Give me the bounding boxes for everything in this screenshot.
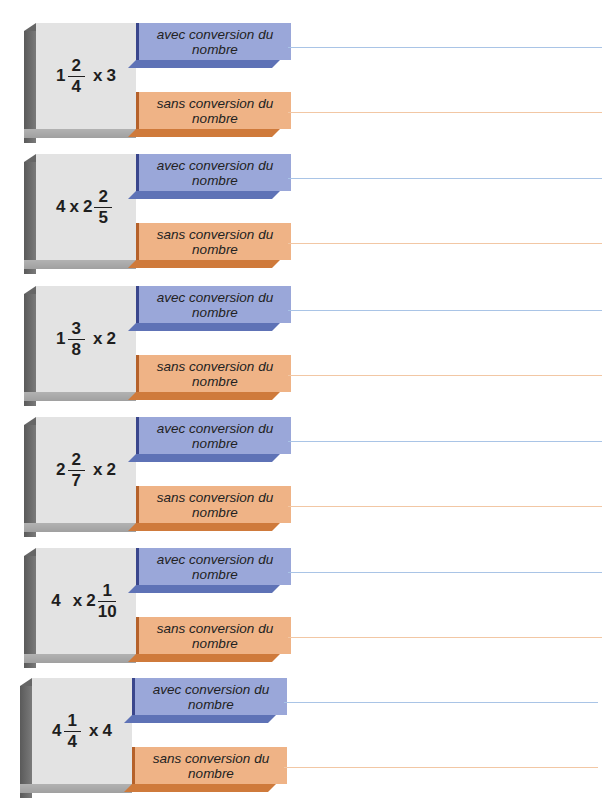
box-bottom	[24, 129, 136, 138]
bar-ledge	[128, 523, 280, 531]
bar-ledge	[128, 129, 280, 137]
bar-ledge	[128, 60, 280, 68]
box-side	[24, 31, 36, 143]
expression: 1 2 4 x 3	[56, 57, 116, 96]
exercise-6: 4 1 4 x 4 avec conversion du nombre sans…	[0, 678, 612, 798]
avec-conversion-label: avec conversion du nombre	[132, 678, 287, 715]
denominator: 4	[68, 732, 77, 751]
box-bottom	[20, 784, 132, 793]
times-sign: x	[93, 66, 102, 86]
box-side	[24, 425, 36, 537]
bar-ledge	[128, 392, 280, 400]
box-bottom	[24, 392, 136, 401]
expression-box: 1 2 4 x 3	[36, 23, 136, 129]
fraction: 1 10	[98, 582, 117, 621]
bar-ledge	[128, 454, 280, 462]
sans-conversion-label: sans conversion du nombre	[136, 355, 291, 392]
answer-line-sans[interactable]	[284, 767, 598, 768]
times-sign: x	[93, 329, 102, 349]
expression: 4 1 4 x 4	[52, 712, 112, 751]
avec-conversion-label: avec conversion du nombre	[136, 417, 291, 454]
numerator: 2	[68, 57, 85, 77]
fraction: 1 4	[64, 712, 81, 751]
denominator: 7	[72, 471, 81, 490]
whole-part: 2	[56, 460, 65, 480]
box-side	[24, 294, 36, 406]
box-side	[24, 556, 36, 668]
exercise-1: 1 2 4 x 3 avec conversion du nombre sans…	[0, 23, 616, 143]
fraction: 3 8	[68, 320, 85, 359]
times-sign: x	[93, 460, 102, 480]
sans-conversion-label: sans conversion du nombre	[136, 92, 291, 129]
answer-line-sans[interactable]	[288, 375, 602, 376]
whole-part: 2	[86, 591, 95, 611]
numerator: 1	[64, 712, 81, 732]
expression-box: 4 x 2 1 10	[36, 548, 136, 654]
answer-line-sans[interactable]	[288, 637, 602, 638]
whole-part: 1	[56, 329, 65, 349]
box-bottom	[24, 654, 136, 663]
sans-conversion-label: sans conversion du nombre	[136, 617, 291, 654]
expression: 1 3 8 x 2	[56, 320, 116, 359]
answer-line-sans[interactable]	[288, 112, 602, 113]
box-bottom	[24, 523, 136, 532]
bar-ledge	[128, 585, 280, 593]
fraction: 2 7	[68, 451, 85, 490]
expression: 4 x 2 2 5	[56, 188, 116, 227]
whole-part: 2	[83, 197, 92, 217]
numerator: 1	[98, 582, 115, 602]
factor: 3	[106, 66, 115, 86]
expression-box: 4 x 2 2 5	[36, 154, 136, 260]
bar-ledge	[124, 784, 276, 792]
expression-box: 4 1 4 x 4	[32, 678, 132, 784]
expression: 2 2 7 x 2	[56, 451, 116, 490]
denominator: 5	[98, 208, 107, 227]
exercise-4: 2 2 7 x 2 avec conversion du nombre sans…	[0, 417, 616, 537]
whole-part: 4	[52, 721, 61, 741]
avec-conversion-label: avec conversion du nombre	[136, 154, 291, 191]
answer-line-avec[interactable]	[288, 310, 602, 311]
answer-line-sans[interactable]	[288, 506, 602, 507]
answer-line-avec[interactable]	[284, 702, 598, 703]
factor: 2	[106, 460, 115, 480]
denominator: 4	[72, 77, 81, 96]
bar-ledge	[124, 715, 276, 723]
fraction: 2 5	[94, 188, 111, 227]
times-sign: x	[89, 721, 98, 741]
box-bottom	[24, 260, 136, 269]
sans-conversion-label: sans conversion du nombre	[136, 223, 291, 260]
expression-box: 2 2 7 x 2	[36, 417, 136, 523]
factor: 4	[102, 721, 111, 741]
denominator: 8	[72, 340, 81, 359]
avec-conversion-label: avec conversion du nombre	[136, 286, 291, 323]
factor: 4	[51, 591, 60, 611]
denominator: 10	[98, 602, 117, 621]
expression-box: 1 3 8 x 2	[36, 286, 136, 392]
whole-part: 1	[56, 66, 65, 86]
bar-ledge	[128, 323, 280, 331]
sans-conversion-label: sans conversion du nombre	[136, 486, 291, 523]
bar-ledge	[128, 260, 280, 268]
sans-conversion-label: sans conversion du nombre	[132, 747, 287, 784]
answer-line-avec[interactable]	[288, 47, 602, 48]
avec-conversion-label: avec conversion du nombre	[136, 23, 291, 60]
answer-line-sans[interactable]	[288, 243, 602, 244]
bar-ledge	[128, 654, 280, 662]
fraction: 2 4	[68, 57, 85, 96]
box-side	[20, 686, 32, 798]
factor: 4	[56, 197, 65, 217]
times-sign: x	[73, 591, 82, 611]
numerator: 3	[68, 320, 85, 340]
times-sign: x	[70, 197, 79, 217]
answer-line-avec[interactable]	[288, 572, 602, 573]
expression: 4 x 2 1 10	[51, 582, 120, 621]
answer-line-avec[interactable]	[288, 178, 602, 179]
factor: 2	[106, 329, 115, 349]
box-side	[24, 162, 36, 274]
exercise-3: 1 3 8 x 2 avec conversion du nombre sans…	[0, 286, 616, 406]
avec-conversion-label: avec conversion du nombre	[136, 548, 291, 585]
exercise-2: 4 x 2 2 5 avec conversion du nombre sans…	[0, 154, 616, 274]
numerator: 2	[94, 188, 111, 208]
answer-line-avec[interactable]	[288, 441, 602, 442]
exercise-5: 4 x 2 1 10 avec conversion du nombre san…	[0, 548, 616, 668]
